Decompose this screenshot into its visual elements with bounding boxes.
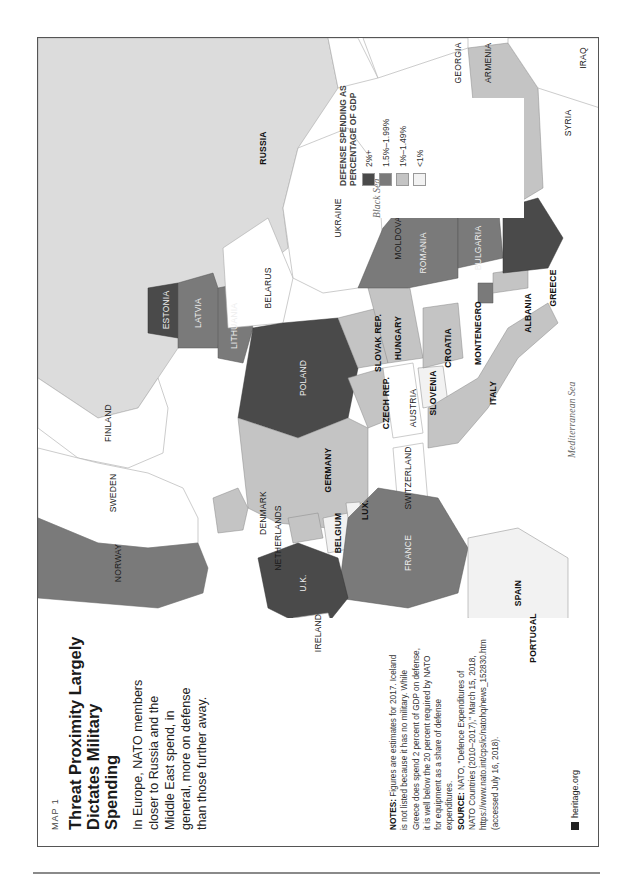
label-mediterranean-sea: Mediterranean Sea — [567, 178, 589, 458]
label-latvia: LATVIA — [193, 298, 203, 328]
legend-label: <1% — [415, 150, 425, 167]
legend-item: 2%+ — [362, 46, 375, 186]
label-spain: SPAIN — [513, 580, 523, 606]
page-title: Threat Proximity Largely Dictates Milita… — [66, 630, 120, 830]
label-greece: GREECE — [548, 269, 558, 306]
label-czech-rep: CZECH REP. — [381, 377, 391, 429]
label-uk: U.K. — [298, 574, 308, 591]
label-ukraine: UKRAINE — [333, 198, 343, 237]
label-sweden: SWEDEN — [108, 474, 118, 513]
label-austria: AUSTRIA — [408, 389, 418, 427]
label-italy: ITALY — [488, 381, 498, 405]
label-ireland: IRELAND — [313, 614, 323, 652]
legend-label: 1%–1.49% — [398, 126, 408, 167]
label-slovak-rep: SLOVAK REP. — [373, 314, 383, 372]
label-norway: NORWAY — [113, 544, 123, 582]
label-romania: ROMANIA — [418, 232, 428, 273]
legend-swatch-2plus — [362, 173, 375, 186]
label-russia: RUSSIA — [258, 131, 268, 164]
heritage-link[interactable]: heritage.org — [570, 770, 580, 818]
label-croatia: CROATIA — [443, 328, 453, 368]
text-column: MAP 1 Threat Proximity Largely Dictates … — [38, 618, 599, 847]
label-switzerland: SWITZERLAND — [403, 446, 413, 509]
label-lux: LUX. — [360, 500, 370, 520]
label-netherlands: NETHERLANDS — [273, 505, 283, 571]
map-kicker: MAP 1 — [50, 798, 60, 830]
rotated-page: MAP 1 Threat Proximity Largely Dictates … — [38, 38, 599, 847]
label-poland: POLAND — [298, 360, 308, 396]
notes-label: NOTES: — [389, 799, 398, 830]
label-albania: ALBANIA — [523, 293, 533, 333]
heritage-brand[interactable]: heritage.org — [570, 770, 580, 830]
label-denmark: DENMARK — [258, 491, 268, 535]
heritage-bell-icon — [571, 822, 579, 830]
legend-title: DEFENSE SPENDING AS PERCENTAGE OF GDP — [338, 46, 358, 186]
label-syria: SYRIA — [563, 110, 573, 137]
legend-swatch-1-5 — [379, 173, 392, 186]
label-armenia: ARMENIA — [483, 43, 493, 83]
legend-item: 1%–1.49% — [396, 46, 409, 186]
label-bulgaria: BULGARIA — [473, 226, 483, 271]
denmark — [213, 488, 248, 533]
label-finland: FINLAND — [103, 404, 113, 442]
source-label: SOURCE: — [457, 792, 466, 830]
label-lithuania: LITHUANIA — [229, 303, 239, 349]
label-portugal: PORTUGAL — [528, 613, 538, 662]
legend-swatch-1 — [396, 173, 409, 186]
intro-text: In Europe, NATO members closer to Russia… — [130, 670, 210, 830]
label-moldova: MOLDOVA — [393, 216, 403, 259]
label-iraq: IRAQ — [578, 47, 588, 69]
legend-item: <1% — [413, 46, 426, 186]
label-belgium: BELGIUM — [333, 513, 343, 554]
label-georgia: GEORGIA — [453, 42, 463, 83]
netherlands — [288, 513, 323, 543]
map-legend: DEFENSE SPENDING AS PERCENTAGE OF GDP 2%… — [338, 46, 426, 186]
label-estonia: ESTONIA — [161, 291, 171, 330]
legend-label: 2%+ — [364, 150, 374, 167]
label-montenegro: MONTENEGRO — [473, 301, 483, 365]
notes-text: Figures are estimates for 2017. Iceland … — [389, 648, 454, 830]
label-germany: GERMANY — [323, 448, 333, 493]
legend-swatch-under1 — [413, 173, 426, 186]
notes-block: NOTES: Figures are estimates for 2017. I… — [388, 648, 501, 830]
label-france: FRANCE — [403, 535, 413, 571]
legend-item: 1.5%–1.99% — [379, 46, 392, 186]
label-hungary: HUNGARY — [393, 316, 403, 360]
page-bottom-rule — [33, 872, 600, 874]
label-slovenia: SLOVENIA — [428, 370, 438, 415]
map-figure-frame: MAP 1 Threat Proximity Largely Dictates … — [37, 37, 599, 847]
label-belarus: BELARUS — [263, 267, 273, 308]
legend-label: 1.5%–1.99% — [381, 119, 391, 167]
